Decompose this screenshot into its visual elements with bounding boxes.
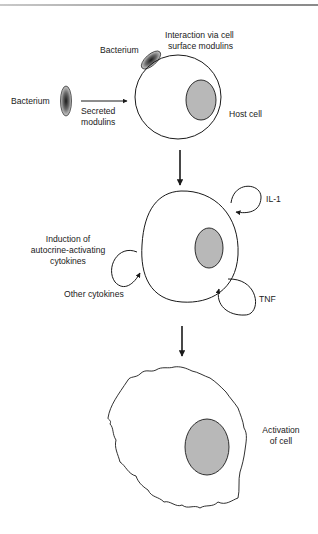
label-line: Activation <box>256 425 306 436</box>
label-line: cytokines <box>22 256 114 267</box>
stage2-cell-membrane <box>142 191 238 302</box>
activated-cell-nucleus <box>185 419 229 475</box>
label-line: Secreted <box>81 106 115 117</box>
label-line: Induction of <box>22 234 114 245</box>
diagram-canvas <box>0 0 318 534</box>
label-host-cell: Host cell <box>229 109 262 120</box>
label-il1: IL-1 <box>266 194 281 205</box>
label-secreted-modulins: Secreted modulins <box>81 106 115 128</box>
host-cell-nucleus <box>186 80 216 120</box>
il1-loop-arrow <box>231 186 261 212</box>
label-line: autocrine-activating <box>22 245 114 256</box>
stage-cytokine-induction <box>112 186 261 315</box>
tnf-loop-arrow <box>218 279 255 315</box>
stage2-nucleus <box>195 228 223 268</box>
label-line: of cell <box>256 436 306 447</box>
label-activation: Activation of cell <box>256 425 306 447</box>
bacterium-top-icon <box>138 48 163 72</box>
other-cytokines-loop-arrow <box>112 250 140 286</box>
label-other-cytokines: Other cytokines <box>64 289 124 300</box>
label-bacterium-top: Bacterium <box>100 45 139 56</box>
label-line: surface modulins <box>165 41 234 52</box>
label-line: Interaction via cell <box>165 30 234 41</box>
label-bacterium-left: Bacterium <box>11 96 50 107</box>
label-tnf: TNF <box>259 294 276 305</box>
stage-activated-cell <box>108 367 246 508</box>
label-induction: Induction of autocrine-activating cytoki… <box>22 234 114 267</box>
bacterium-left-icon <box>61 86 72 116</box>
label-surface-interaction: Interaction via cell surface modulins <box>165 30 234 52</box>
label-line: modulins <box>81 117 115 128</box>
